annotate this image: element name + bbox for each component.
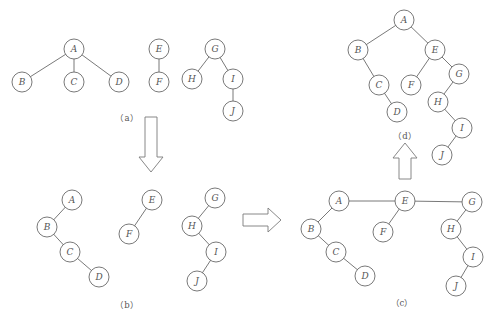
node-label: C <box>376 80 383 90</box>
node-label: D <box>114 77 122 87</box>
node-label: A <box>335 196 343 206</box>
node-label: B <box>18 77 26 87</box>
node-d-H: H <box>428 92 448 112</box>
node-label: C <box>71 77 78 87</box>
forest-to-binary-tree-diagram: ABCDEFGHIJABCDEFGHIJABCDEFGHIJABCDEFGHIJ… <box>0 0 495 323</box>
node-label: D <box>392 107 400 117</box>
node-d-F: F <box>401 75 421 95</box>
node-label: F <box>379 227 387 237</box>
node-label: C <box>333 247 340 257</box>
node-c-J: J <box>446 276 466 296</box>
node-b-G: G <box>205 188 225 208</box>
node-label: F <box>407 80 415 90</box>
node-a-D: D <box>109 72 129 92</box>
node-label: A <box>400 15 408 25</box>
node-d-I: I <box>452 118 472 138</box>
node-label: F <box>125 229 133 239</box>
node-label: G <box>211 44 218 54</box>
node-b-A: A <box>62 190 82 210</box>
node-label: C <box>67 247 74 257</box>
node-label: E <box>401 196 409 206</box>
node-d-D: D <box>387 102 407 122</box>
node-label: F <box>155 77 163 87</box>
node-c-H: H <box>441 219 461 239</box>
node-d-B: B <box>348 40 368 60</box>
node-label: H <box>187 221 196 231</box>
caption-c: （c） <box>391 298 414 308</box>
node-label: I <box>230 74 235 84</box>
node-label: B <box>307 224 315 234</box>
node-a-H: H <box>182 69 202 89</box>
caption-b: （b） <box>115 300 138 310</box>
node-d-A: A <box>394 10 414 30</box>
node-label: G <box>211 193 218 203</box>
node-label: E <box>431 45 439 55</box>
node-label: H <box>446 224 455 234</box>
caption-d: （d） <box>393 131 416 141</box>
node-c-D: D <box>355 266 375 286</box>
node-d-G: G <box>449 64 469 84</box>
node-label: E <box>148 195 156 205</box>
node-label: I <box>459 123 464 133</box>
node-label: B <box>354 45 362 55</box>
node-d-J: J <box>432 145 452 165</box>
node-b-H: H <box>182 216 202 236</box>
node-a-F: F <box>149 72 169 92</box>
node-a-I: I <box>223 69 243 89</box>
node-b-I: I <box>206 242 226 262</box>
caption-a: （a） <box>115 113 138 123</box>
arrow-right-icon <box>243 208 281 232</box>
node-label: I <box>213 247 218 257</box>
node-a-E: E <box>149 39 169 59</box>
node-c-G: G <box>462 192 482 212</box>
node-a-C: C <box>64 72 84 92</box>
node-c-B: B <box>301 219 321 239</box>
node-a-B: B <box>12 72 32 92</box>
node-label: E <box>155 44 163 54</box>
node-b-F: F <box>119 224 139 244</box>
node-c-E: E <box>395 191 415 211</box>
node-c-I: I <box>463 247 483 267</box>
node-a-A: A <box>64 39 84 59</box>
node-label: B <box>43 222 51 232</box>
node-b-C: C <box>60 242 80 262</box>
node-label: D <box>94 272 102 282</box>
node-a-J: J <box>223 101 243 121</box>
arrow-up-icon <box>393 143 417 179</box>
node-b-D: D <box>89 267 109 287</box>
node-label: H <box>187 74 196 84</box>
node-d-C: C <box>369 75 389 95</box>
node-c-F: F <box>373 222 393 242</box>
node-label: A <box>70 44 78 54</box>
node-label: G <box>468 197 475 207</box>
node-label: D <box>360 271 368 281</box>
node-label: G <box>455 69 462 79</box>
node-c-C: C <box>326 242 346 262</box>
node-c-A: A <box>329 191 349 211</box>
node-a-G: G <box>205 39 225 59</box>
node-b-E: E <box>142 190 162 210</box>
node-label: I <box>470 252 475 262</box>
arrow-down-icon <box>139 117 163 172</box>
node-d-E: E <box>425 40 445 60</box>
node-b-J: J <box>187 271 207 291</box>
node-label: H <box>433 97 442 107</box>
node-b-B: B <box>37 217 57 237</box>
node-label: A <box>68 195 76 205</box>
